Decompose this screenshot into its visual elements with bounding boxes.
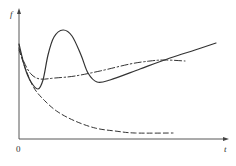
series-solid-line — [19, 30, 216, 89]
line-chart — [0, 0, 236, 166]
origin-label: 0 — [16, 145, 21, 154]
y-axis-arrow-icon — [17, 8, 21, 14]
x-axis-label: t — [224, 145, 227, 154]
chart-container: f 0 t — [0, 0, 236, 166]
y-axis-label: f — [10, 10, 13, 19]
x-axis-arrow-icon — [223, 137, 229, 141]
series-layer — [19, 30, 216, 133]
series-dashed-line — [19, 50, 173, 133]
axes — [17, 8, 229, 141]
